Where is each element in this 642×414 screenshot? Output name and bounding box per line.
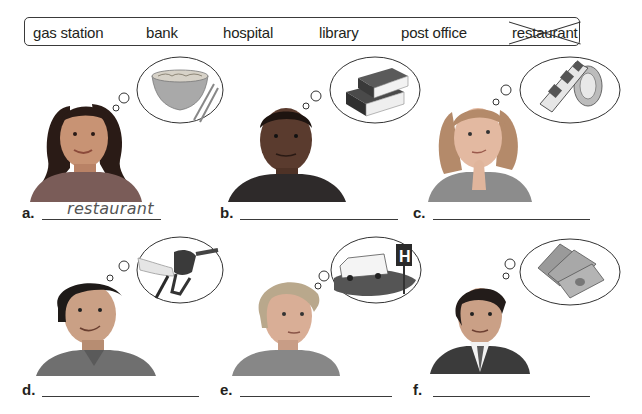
thought-bubble-hospital: H bbox=[312, 236, 424, 308]
word-restaurant: restaurant bbox=[512, 24, 578, 41]
answer-line-f[interactable] bbox=[433, 396, 590, 397]
word-post-office: post office bbox=[401, 24, 467, 41]
thought-bubble-gas-pump bbox=[100, 236, 225, 308]
word-restaurant-crossed: restaurant bbox=[512, 24, 578, 41]
item-c-letter: c. bbox=[413, 204, 426, 221]
answer-line-a[interactable] bbox=[42, 219, 161, 220]
word-gas-station: gas station bbox=[33, 24, 103, 41]
thought-bubble-money bbox=[500, 236, 624, 308]
crossed-word: restaurant bbox=[512, 24, 578, 41]
item-a-letter: a. bbox=[22, 204, 35, 221]
thought-bubble-noodles bbox=[110, 56, 225, 128]
word-library: library bbox=[319, 24, 358, 41]
thought-bubble-stamps bbox=[490, 56, 622, 128]
answer-a-text: restaurant bbox=[67, 199, 154, 218]
svg-text:H: H bbox=[399, 248, 411, 265]
thought-bubble-books bbox=[300, 56, 422, 128]
answer-line-d[interactable] bbox=[42, 396, 199, 397]
answer-line-e[interactable] bbox=[240, 396, 392, 397]
item-b-letter: b. bbox=[220, 204, 233, 221]
answer-line-c[interactable] bbox=[433, 219, 590, 220]
item-e-letter: e. bbox=[220, 381, 233, 398]
item-d-letter: d. bbox=[22, 381, 35, 398]
word-bank: gas station bank hospital library post o… bbox=[24, 17, 580, 46]
answer-line-b[interactable] bbox=[240, 219, 398, 220]
item-f-letter: f. bbox=[413, 381, 422, 398]
word-hospital: hospital bbox=[223, 24, 273, 41]
word-bank: bank bbox=[146, 24, 178, 41]
